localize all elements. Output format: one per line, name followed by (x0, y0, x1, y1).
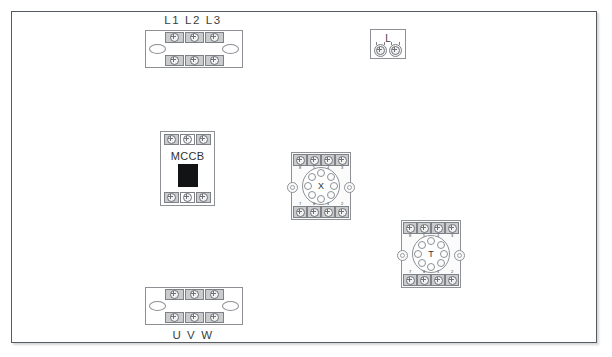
motor-terminal-block[interactable] (145, 287, 243, 325)
screw-icon (296, 208, 305, 217)
relay-t-pin-row-bottom: 7 6 1 2 (403, 274, 459, 286)
screw-icon (190, 33, 199, 42)
screw-icon (406, 276, 415, 285)
mccb-terminal-bottom-1[interactable] (164, 192, 179, 203)
pin-hole-icon (327, 191, 335, 199)
pin-hole-icon (437, 241, 445, 249)
screw-icon (167, 135, 176, 144)
screw-icon (167, 193, 176, 202)
motor-terminal-block-group: U V W (145, 287, 243, 325)
mccb-device[interactable]: MCCB (160, 131, 215, 206)
screw-icon (376, 46, 385, 55)
terminal-l1-top[interactable] (165, 32, 184, 43)
pin-number: 2 (451, 270, 453, 274)
motor-terminal-block-label: U V W (145, 329, 241, 341)
lamp-block[interactable]: L (370, 29, 406, 59)
screw-icon (406, 224, 415, 233)
mccb-terminal-bottom-3[interactable] (196, 192, 211, 203)
screw-icon (199, 135, 208, 144)
mccb-terminal-top-1[interactable] (164, 134, 179, 145)
mccb-terminal-bottom-2[interactable] (180, 192, 195, 203)
terminal-core (163, 32, 225, 66)
terminal-w-bottom[interactable] (205, 312, 224, 323)
relay-x-pin-4[interactable]: 4 (321, 154, 335, 166)
relay-t-label: T (428, 249, 434, 259)
terminal-row-bottom (163, 312, 225, 323)
terminal-tab-icon (391, 42, 400, 45)
screw-icon (391, 46, 400, 55)
lamp-terminal-2[interactable] (389, 44, 402, 57)
screw-icon (420, 224, 429, 233)
screw-icon (338, 208, 347, 217)
relay-x-pin-3[interactable]: 3 (335, 154, 349, 166)
screw-icon (210, 56, 219, 65)
screw-icon (170, 313, 179, 322)
pin-number: 6 (423, 270, 425, 274)
screw-icon (448, 276, 457, 285)
terminal-core (163, 289, 225, 323)
relay-t-pin-circle: T (412, 235, 450, 273)
pin-number: 6 (313, 202, 315, 206)
mccb-terminal-top-3[interactable] (196, 134, 211, 145)
screw-icon (183, 135, 192, 144)
terminal-w-top[interactable] (205, 289, 224, 300)
relay-x-pin-7[interactable]: 7 (293, 206, 307, 218)
relay-socket-x[interactable]: 8 5 4 3 X 7 6 1 2 (291, 152, 351, 220)
relay-x-pin-row-top: 8 5 4 3 (293, 154, 349, 166)
terminal-row-top (163, 32, 225, 43)
terminal-l2-bottom[interactable] (185, 55, 204, 66)
supply-terminal-block-label: L1 L2 L3 (145, 14, 241, 26)
relay-t-pin-7[interactable]: 7 (403, 274, 417, 286)
relay-t-pin-3[interactable]: 3 (445, 222, 459, 234)
mccb-toggle-switch[interactable] (178, 164, 198, 187)
pin-hole-icon (414, 250, 422, 258)
relay-t-pin-row-top: 8 5 4 3 (403, 222, 459, 234)
pin-number: 2 (341, 202, 343, 206)
control-panel-frame: L1 L2 L3 L (11, 11, 597, 343)
relay-x-pin-8[interactable]: 8 (293, 154, 307, 166)
screw-icon (190, 56, 199, 65)
pin-hole-icon (440, 250, 448, 258)
pin-hole-icon (308, 173, 316, 181)
relay-socket-t[interactable]: 8 5 4 3 T 7 6 1 2 (401, 220, 461, 288)
relay-t-pin-2[interactable]: 2 (445, 274, 459, 286)
relay-x-pin-circle: X (302, 167, 340, 205)
screw-icon (210, 290, 219, 299)
terminal-u-bottom[interactable] (165, 312, 184, 323)
mccb-terminal-top-2[interactable] (180, 134, 195, 145)
pin-number: 1 (437, 270, 439, 274)
relay-x-pin-5[interactable]: 5 (307, 154, 321, 166)
relay-t-pin-8[interactable]: 8 (403, 222, 417, 234)
pin-number: 7 (409, 270, 411, 274)
relay-x-label: X (318, 181, 324, 191)
terminal-l1-bottom[interactable] (165, 55, 184, 66)
screw-icon (310, 156, 319, 165)
terminal-v-bottom[interactable] (185, 312, 204, 323)
pin-hole-icon (418, 259, 426, 267)
pin-hole-icon (330, 182, 338, 190)
terminal-l3-top[interactable] (205, 32, 224, 43)
terminal-u-top[interactable] (165, 289, 184, 300)
relay-t-pin-4[interactable]: 4 (431, 222, 445, 234)
supply-terminal-block[interactable] (145, 30, 243, 68)
relay-x-pin-1[interactable]: 1 (321, 206, 335, 218)
relay-t-pin-1[interactable]: 1 (431, 274, 445, 286)
pin-hole-icon (427, 237, 435, 245)
pin-hole-icon (308, 191, 316, 199)
relay-x-pin-2[interactable]: 2 (335, 206, 349, 218)
supply-terminal-block-group: L1 L2 L3 (145, 14, 243, 68)
terminal-tab-icon (376, 42, 385, 45)
pin-hole-icon (418, 241, 426, 249)
screw-icon (183, 193, 192, 202)
relay-t-pin-5[interactable]: 5 (417, 222, 431, 234)
terminal-l2-top[interactable] (185, 32, 204, 43)
screw-icon (324, 208, 333, 217)
mccb-body: MCCB (171, 145, 205, 192)
lamp-terminal-1[interactable] (374, 44, 387, 57)
terminal-v-top[interactable] (185, 289, 204, 300)
relay-t-pin-6[interactable]: 6 (417, 274, 431, 286)
terminal-l3-bottom[interactable] (205, 55, 224, 66)
screw-icon (210, 33, 219, 42)
relay-x-pin-6[interactable]: 6 (307, 206, 321, 218)
pin-hole-icon (327, 173, 335, 181)
